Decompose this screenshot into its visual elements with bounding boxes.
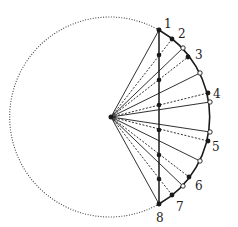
chord-dot bbox=[157, 128, 162, 133]
arc-point-1 bbox=[157, 28, 162, 33]
center-point bbox=[109, 115, 114, 120]
dashed-ray bbox=[111, 117, 189, 177]
point-label-8: 8 bbox=[156, 211, 164, 225]
arc-point-6 bbox=[187, 175, 192, 180]
arc-point-4 bbox=[206, 91, 211, 96]
arc-point-2 bbox=[170, 37, 175, 42]
chord-dot bbox=[157, 78, 162, 83]
dashed-ray bbox=[111, 39, 172, 117]
solid-ray bbox=[111, 48, 183, 117]
open-arc-point bbox=[181, 184, 185, 188]
chord-dot bbox=[157, 103, 162, 108]
open-arc-point bbox=[181, 46, 185, 50]
point-label-5: 5 bbox=[212, 140, 220, 154]
point-label-7: 7 bbox=[176, 200, 184, 214]
arc-point-7 bbox=[170, 193, 175, 198]
open-arc-point bbox=[208, 130, 212, 134]
chord-dot bbox=[157, 177, 162, 182]
point-label-2: 2 bbox=[178, 27, 186, 41]
dashed-ray bbox=[111, 57, 188, 117]
chord-dot bbox=[157, 153, 162, 158]
solid-ray bbox=[111, 117, 183, 186]
dashed-ray bbox=[111, 117, 172, 195]
point-label-6: 6 bbox=[195, 179, 203, 193]
chord-dot bbox=[157, 53, 162, 58]
solid-ray bbox=[111, 30, 159, 117]
dotted-arc bbox=[10, 17, 159, 217]
circle-chord-projection-diagram: 12345678 bbox=[0, 0, 238, 227]
open-arc-point bbox=[198, 71, 202, 75]
dotted-circle-arc bbox=[10, 17, 159, 217]
point-label-3: 3 bbox=[195, 48, 203, 62]
arc-point-3 bbox=[186, 55, 191, 60]
open-arc-point bbox=[208, 100, 212, 104]
arc-point-8 bbox=[157, 202, 162, 207]
solid-ray bbox=[111, 117, 159, 204]
arc-point-5 bbox=[206, 139, 211, 144]
open-arc-point bbox=[198, 159, 202, 163]
point-label-1: 1 bbox=[164, 17, 172, 31]
point-label-4: 4 bbox=[213, 87, 221, 101]
